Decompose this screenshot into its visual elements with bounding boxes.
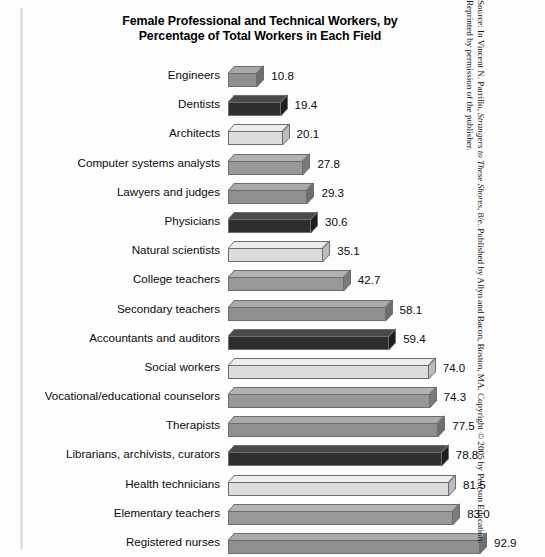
bar-front-face [228, 394, 430, 408]
bar-3d [228, 329, 396, 351]
bar-category-label: Registered nurses [126, 535, 220, 548]
bar-top-face [228, 124, 289, 131]
bar-value-label: 92.9 [494, 536, 517, 549]
bar-value-label: 74.3 [444, 390, 467, 403]
bar-row: Physicians30.6 [0, 208, 495, 237]
bar-top-face [228, 270, 350, 277]
bar-category-label: Computer systems analysts [78, 156, 220, 169]
bar-top-face [228, 183, 314, 190]
bar-value-label: 19.4 [295, 98, 318, 111]
bar-value-label: 27.8 [317, 157, 340, 170]
bar-row: Therapists77.5 [0, 412, 495, 441]
source-citation: Source: In Vincent N. Parrillo, Stranger… [467, 0, 489, 545]
bar-row: Computer systems analysts27.8 [0, 150, 495, 179]
bar-front-face [228, 248, 323, 262]
bar-top-face [228, 154, 310, 161]
bar-row: Social workers74.0 [0, 354, 495, 383]
bar-top-face [228, 475, 455, 482]
bar-value-label: 42.7 [358, 273, 381, 286]
bar-3d [228, 66, 264, 88]
bar-top-face [228, 445, 448, 452]
bar-top-face [228, 241, 330, 248]
bar-row: Accountants and auditors59.4 [0, 325, 495, 354]
bar-value-label: 35.1 [337, 244, 360, 257]
bar-top-face [228, 358, 435, 365]
bar-value-label: 59.4 [403, 332, 426, 345]
bar-front-face [228, 73, 257, 87]
bar-3d [228, 183, 314, 205]
bar-front-face [228, 161, 303, 175]
bar-category-label: Vocational/educational counselors [45, 389, 220, 402]
bar-top-face [228, 329, 395, 336]
bar-top-face [228, 300, 392, 307]
bar-category-label: Natural scientists [132, 243, 220, 256]
bar-front-face [228, 511, 453, 525]
bar-3d [228, 154, 310, 176]
bar-front-face [228, 102, 281, 116]
bar-row: Engineers10.8 [0, 62, 495, 91]
bar-row: Elementary teachers83.0 [0, 500, 495, 529]
source-suffix: , 8/e. Published by Allyn and Bacon, Bos… [476, 208, 486, 430]
bar-3d [228, 358, 436, 380]
bar-category-label: College teachers [133, 272, 220, 285]
chart-title: Female Professional and Technical Worker… [40, 14, 480, 44]
bar-category-label: Accountants and auditors [89, 331, 220, 344]
bar-category-label: Architects [169, 126, 220, 139]
bar-top-face [228, 95, 287, 102]
bar-top-face [228, 504, 459, 511]
bar-category-label: Social workers [145, 360, 220, 373]
bar-row: Librarians, archivists, curators78.8 [0, 441, 495, 470]
bar-front-face [228, 336, 389, 350]
bar-front-face [228, 482, 449, 496]
bar-front-face [228, 219, 311, 233]
bar-category-label: Lawyers and judges [117, 185, 220, 198]
bar-value-label: 58.1 [400, 303, 423, 316]
chart-title-line-1: Female Professional and Technical Worker… [40, 14, 480, 29]
bar-value-label: 20.1 [297, 127, 320, 140]
bar-row: Dentists19.4 [0, 91, 495, 120]
bar-3d [228, 445, 449, 467]
bar-chart-plot-area: Engineers10.8Dentists19.4Architects20.1C… [0, 62, 495, 542]
bar-3d [228, 387, 437, 409]
bar-front-face [228, 131, 283, 145]
bar-category-label: Librarians, archivists, curators [66, 447, 220, 460]
bar-3d [228, 475, 456, 497]
bar-value-label: 74.0 [443, 361, 466, 374]
bar-front-face [228, 365, 429, 379]
bar-category-label: Therapists [166, 418, 220, 431]
bar-category-label: Health technicians [125, 477, 220, 490]
bar-front-face [228, 423, 438, 437]
bar-row: Health technicians81.5 [0, 471, 495, 500]
chart-page: Female Professional and Technical Worker… [0, 0, 545, 557]
source-book-title: Strangers to These Shores [476, 113, 486, 208]
bar-3d [228, 124, 290, 146]
bar-value-label: 30.6 [325, 215, 348, 228]
source-prefix: Source: In Vincent N. Parrillo, [476, 0, 486, 113]
bar-front-face [228, 190, 307, 204]
bar-category-label: Engineers [168, 68, 220, 81]
bar-category-label: Secondary teachers [117, 302, 220, 315]
chart-title-line-2: Percentage of Total Workers in Each Fiel… [40, 29, 480, 44]
bar-3d [228, 300, 393, 322]
bar-category-label: Elementary teachers [114, 506, 220, 519]
bar-row: Registered nurses92.9 [0, 529, 495, 557]
bar-top-face [228, 533, 486, 540]
bar-row: College teachers42.7 [0, 266, 495, 295]
bar-row: Natural scientists35.1 [0, 237, 495, 266]
bar-3d [228, 212, 318, 234]
bar-3d [228, 504, 460, 526]
bar-3d [228, 533, 487, 555]
bar-3d [228, 270, 351, 292]
bar-front-face [228, 277, 344, 291]
bar-3d [228, 241, 330, 263]
bar-front-face [228, 540, 480, 554]
bar-row: Lawyers and judges29.3 [0, 179, 495, 208]
bar-row: Architects20.1 [0, 120, 495, 149]
bar-3d [228, 416, 445, 438]
bar-top-face [228, 416, 445, 423]
bar-row: Secondary teachers58.1 [0, 296, 495, 325]
bar-value-label: 10.8 [271, 69, 294, 82]
bar-front-face [228, 452, 442, 466]
bar-value-label: 29.3 [321, 186, 344, 199]
bar-category-label: Physicians [165, 214, 220, 227]
